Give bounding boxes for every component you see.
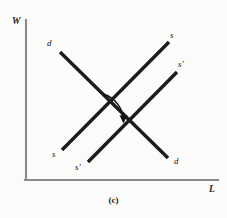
x-axis-label: L [209, 185, 215, 195]
panel-caption: (c) [0, 196, 227, 205]
demand-curve-d [60, 52, 168, 158]
y-axis-label: W [12, 17, 20, 27]
figure-panel-c: W L d d s s s' s' (c) [0, 0, 227, 218]
supply-shift-curve-label-top: s' [178, 60, 184, 69]
supply-shift-curve-label-bottom: s' [75, 163, 81, 172]
supply-curve-s-prime [88, 72, 177, 162]
demand-curve-label-top: d [47, 39, 52, 48]
supply-curve-label-top: s [170, 31, 174, 40]
demand-curve-label-bottom: d [174, 157, 179, 166]
supply-demand-chart [0, 0, 227, 218]
supply-curve-label-bottom: s [52, 150, 56, 159]
